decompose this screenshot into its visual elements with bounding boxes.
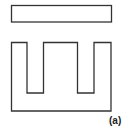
i-bar [12,6,112,23]
e-core [12,43,112,112]
figure-label: (a) [109,115,121,127]
